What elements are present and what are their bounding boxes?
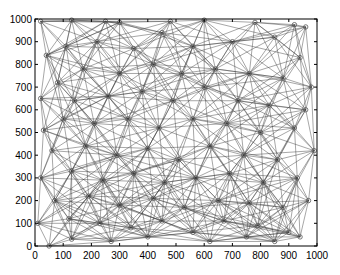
graph-edge <box>86 146 89 196</box>
graph-edge <box>38 178 41 223</box>
y-tick-label: 200 <box>15 195 32 206</box>
graph-edge <box>148 146 210 148</box>
graph-edge <box>153 173 229 198</box>
graph-edge <box>43 123 94 130</box>
y-tick-label: 300 <box>15 172 32 183</box>
y-tick-label: 600 <box>15 104 32 115</box>
graph-edge <box>232 42 283 78</box>
graph-edge <box>196 178 264 183</box>
graph-edge <box>300 27 306 58</box>
x-axis-ticks: 01002003004005006007008009001000 <box>32 19 328 261</box>
graph-edge <box>117 155 179 160</box>
graph-edge <box>278 160 298 178</box>
graph-edge <box>232 27 305 42</box>
graph-edge <box>283 27 306 78</box>
x-tick-label: 800 <box>252 250 269 261</box>
graph-edge <box>58 83 129 119</box>
x-tick-label: 900 <box>280 250 297 261</box>
x-tick-label: 1000 <box>306 250 329 261</box>
graph-edge <box>41 98 52 150</box>
graph-edge <box>41 98 44 130</box>
graph-edge <box>120 73 128 118</box>
y-tick-label: 1000 <box>10 14 33 25</box>
x-tick-label: 300 <box>111 250 128 261</box>
graph-edge <box>134 49 173 101</box>
graph-edge <box>97 42 153 65</box>
graph-edge <box>41 69 83 99</box>
x-tick-label: 200 <box>83 250 100 261</box>
graph-edge <box>94 119 128 124</box>
graph-edge <box>269 78 283 105</box>
graph-edge <box>52 151 117 156</box>
graph-edge <box>311 87 314 151</box>
graph-edge <box>227 105 269 123</box>
graph-edges <box>38 20 314 246</box>
x-tick-label: 700 <box>224 250 241 261</box>
graph-edge <box>227 123 230 173</box>
graph-edge <box>210 123 227 146</box>
y-tick-label: 700 <box>15 82 32 93</box>
graph-edge <box>297 178 308 201</box>
graph-edge <box>108 96 173 101</box>
graph-edge <box>227 110 306 124</box>
graph-edge <box>128 92 142 119</box>
graph-edge <box>218 178 297 201</box>
graph-edge <box>38 223 72 239</box>
y-tick-label: 400 <box>15 150 32 161</box>
y-tick-label: 100 <box>15 218 32 229</box>
graph-edge <box>72 171 134 173</box>
graph-edge <box>297 178 300 237</box>
graph-edge <box>38 223 49 246</box>
graph-edge <box>120 22 154 64</box>
graph-edge <box>134 173 196 178</box>
graph-edge <box>173 73 181 100</box>
graph-edge <box>74 42 97 101</box>
graph-edge <box>165 182 219 200</box>
x-tick-label: 500 <box>168 250 185 261</box>
graph-edge <box>55 201 120 206</box>
graph-edge <box>83 42 97 69</box>
graph-edge <box>148 232 193 237</box>
graph-edge <box>41 130 44 178</box>
graph-edge <box>269 105 294 128</box>
y-tick-label: 900 <box>15 36 32 47</box>
graph-edge <box>244 151 315 156</box>
graph-edge <box>294 128 297 178</box>
y-tick-label: 0 <box>26 241 32 252</box>
graph-edge <box>103 180 165 182</box>
graph-edge <box>55 155 117 200</box>
graph-edge <box>255 22 306 27</box>
graph-edge <box>258 160 278 226</box>
graph-edge <box>120 22 162 32</box>
graph-edge <box>89 155 117 196</box>
y-tick-label: 500 <box>15 127 32 138</box>
graph-edge <box>43 130 71 171</box>
x-tick-label: 0 <box>32 250 38 261</box>
graph-edge <box>306 27 312 87</box>
graph-edge <box>165 182 185 207</box>
graph-edge <box>89 182 165 196</box>
graph-edge <box>238 58 300 101</box>
x-tick-label: 600 <box>196 250 213 261</box>
graph-edge <box>72 239 111 241</box>
graph-edge <box>238 78 283 101</box>
graph-edge <box>170 20 204 21</box>
x-tick-label: 400 <box>139 250 156 261</box>
graph-edge <box>179 123 227 159</box>
graph-edge <box>283 78 311 87</box>
graph-edge <box>148 182 165 236</box>
graph-edge <box>41 178 72 239</box>
graph-edge <box>215 37 274 69</box>
graph-edge <box>230 155 244 173</box>
graph-edge <box>46 55 57 82</box>
graph-edge <box>148 207 185 237</box>
x-tick-label: 100 <box>55 250 72 261</box>
graph-edge <box>196 123 227 177</box>
graph-edge <box>94 101 173 124</box>
graph-edge <box>86 128 159 146</box>
graph-edge <box>210 237 247 242</box>
y-tick-label: 800 <box>15 59 32 70</box>
network-chart: 01002003004005006007008009001000 0100200… <box>0 0 340 275</box>
graph-edge <box>204 20 249 73</box>
graph-edge <box>227 123 278 159</box>
